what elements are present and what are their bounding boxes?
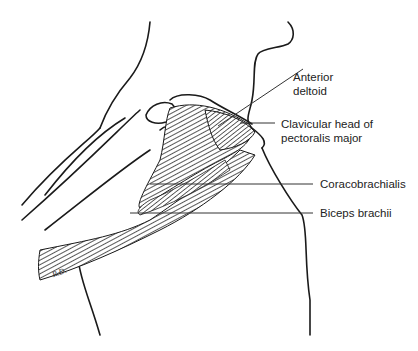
label-line: pectoralis major — [281, 131, 373, 145]
label-line: Coracobrachialis — [320, 177, 406, 191]
label-line: deltoid — [293, 84, 333, 98]
anatomy-figure: Anterior deltoid Clavicular head of pect… — [0, 0, 418, 351]
label-line: Biceps brachii — [320, 206, 392, 220]
label-anterior-deltoid: Anterior deltoid — [293, 70, 333, 98]
label-clavicular-head: Clavicular head of pectoralis major — [281, 117, 373, 145]
anatomy-drawing — [0, 0, 418, 351]
label-coracobrachialis: Coracobrachialis — [320, 177, 406, 191]
label-line: Anterior — [293, 70, 333, 84]
label-line: Clavicular head of — [281, 117, 373, 131]
label-biceps-brachii: Biceps brachii — [320, 206, 392, 220]
